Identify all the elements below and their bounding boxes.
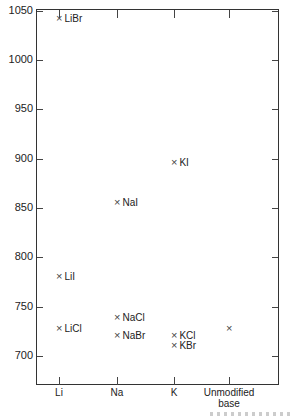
cross-marker-icon: × (56, 12, 62, 24)
cross-marker-icon: × (56, 322, 62, 334)
cross-marker-icon: × (226, 322, 232, 334)
y-tick (37, 257, 43, 258)
point-label: NaBr (122, 330, 145, 341)
data-point: ×KBr (171, 339, 196, 351)
x-tick (59, 377, 60, 385)
point-label: KBr (179, 340, 196, 351)
data-point: ×NaBr (114, 329, 145, 341)
y-tick (37, 307, 43, 308)
y-tick-label: 800 (1, 250, 33, 262)
data-point: ×NaCl (114, 311, 145, 323)
data-point: ×LiI (56, 270, 75, 282)
y-tick-label: 950 (1, 102, 33, 114)
cropped-caption (210, 412, 294, 416)
y-tick-label: 850 (1, 201, 33, 213)
x-tick (174, 377, 175, 385)
point-label: LiBr (64, 13, 82, 24)
y-tick (37, 11, 43, 12)
data-point: ×LiBr (56, 12, 82, 24)
data-point: ×KI (171, 156, 189, 168)
x-tick-label: Unmodifiedbase (194, 387, 264, 409)
y-tick-right (272, 257, 278, 258)
x-tick (117, 377, 118, 385)
x-tick-top (229, 10, 230, 18)
data-point: ×NaI (114, 196, 138, 208)
y-tick-label: 750 (1, 300, 33, 312)
point-label: NaI (122, 197, 138, 208)
x-tick-top (174, 10, 175, 18)
cross-marker-icon: × (171, 156, 177, 168)
y-tick-right (272, 109, 278, 110)
y-tick-right (272, 307, 278, 308)
y-tick (37, 159, 43, 160)
y-tick-label: 1050 (1, 4, 33, 16)
y-tick-right (272, 11, 278, 12)
point-label: NaCl (122, 312, 144, 323)
y-tick-right (272, 159, 278, 160)
y-tick-label: 700 (1, 349, 33, 361)
data-point: × (226, 322, 234, 334)
x-tick-top (117, 10, 118, 18)
cross-marker-icon: × (56, 270, 62, 282)
x-tick (229, 377, 230, 385)
y-tick-right (272, 356, 278, 357)
y-tick (37, 60, 43, 61)
cross-marker-icon: × (171, 339, 177, 351)
point-label: LiI (64, 271, 75, 282)
y-tick-label: 900 (1, 152, 33, 164)
y-tick (37, 208, 43, 209)
cross-marker-icon: × (114, 311, 120, 323)
y-tick-right (272, 60, 278, 61)
y-tick (37, 356, 43, 357)
y-tick-label: 1000 (1, 53, 33, 65)
cross-marker-icon: × (114, 329, 120, 341)
cross-marker-icon: × (114, 196, 120, 208)
point-label: LiCl (64, 323, 81, 334)
data-point: ×LiCl (56, 322, 82, 334)
point-label: KI (179, 157, 188, 168)
y-tick-right (272, 208, 278, 209)
y-tick (37, 109, 43, 110)
